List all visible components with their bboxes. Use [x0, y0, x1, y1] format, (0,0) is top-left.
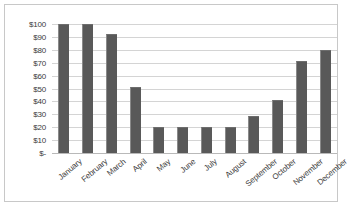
x-axis-category-labels: JanuaryFebruaryMarchAprilMayJuneJulyAugu… — [52, 153, 337, 209]
bar-slot — [313, 24, 337, 153]
bar-slot — [242, 24, 266, 153]
x-label-slot: March — [100, 153, 124, 209]
x-label-slot: September — [242, 153, 266, 209]
x-axis-tick-label: July — [203, 157, 219, 173]
bar-slot — [147, 24, 171, 153]
bar-slot — [123, 24, 147, 153]
bar — [106, 34, 117, 153]
x-label-slot: November — [290, 153, 314, 209]
y-axis-tick-label: $30 — [33, 110, 46, 119]
bar-slot — [195, 24, 219, 153]
y-axis-tick-label: $- — [39, 149, 46, 158]
y-axis-tick-label: $20 — [33, 123, 46, 132]
x-label-slot: April — [123, 153, 147, 209]
x-axis-tick-label: May — [155, 157, 172, 173]
bar — [58, 24, 69, 153]
bar — [296, 61, 307, 153]
bar-slot — [100, 24, 124, 153]
x-label-slot: February — [76, 153, 100, 209]
bar-slot — [290, 24, 314, 153]
bar — [201, 127, 212, 153]
bar-slot — [266, 24, 290, 153]
y-axis-tick-label: $70 — [33, 58, 46, 67]
bar — [225, 127, 236, 153]
y-axis-tick-label: $50 — [33, 84, 46, 93]
bar — [82, 24, 93, 153]
bar — [177, 127, 188, 153]
bar-slot — [218, 24, 242, 153]
y-axis-tick-label: $40 — [33, 97, 46, 106]
x-label-slot: December — [313, 153, 337, 209]
x-axis-tick-label: December — [316, 157, 349, 187]
bar-series — [52, 24, 337, 153]
bar-slot — [52, 24, 76, 153]
y-axis-tick-label: $100 — [29, 20, 46, 29]
bar — [130, 87, 141, 153]
x-label-slot: August — [218, 153, 242, 209]
x-label-slot: October — [266, 153, 290, 209]
bar — [248, 116, 259, 153]
plot-area — [52, 24, 337, 153]
bar — [320, 50, 331, 153]
bar — [153, 127, 164, 153]
x-label-slot: May — [147, 153, 171, 209]
y-axis-tick-label: $60 — [33, 71, 46, 80]
x-label-slot: January — [52, 153, 76, 209]
bar-slot — [171, 24, 195, 153]
x-label-slot: July — [195, 153, 219, 209]
y-axis-tick-label: $90 — [33, 32, 46, 41]
bar-slot — [76, 24, 100, 153]
x-label-slot: June — [171, 153, 195, 209]
y-axis-tick-labels: $-$10$20$30$40$50$60$70$80$90$100 — [5, 24, 49, 153]
bar — [272, 100, 283, 153]
y-axis-tick-label: $80 — [33, 45, 46, 54]
chart-frame: $-$10$20$30$40$50$60$70$80$90$100 Januar… — [4, 4, 338, 202]
y-axis-tick-label: $10 — [33, 136, 46, 145]
